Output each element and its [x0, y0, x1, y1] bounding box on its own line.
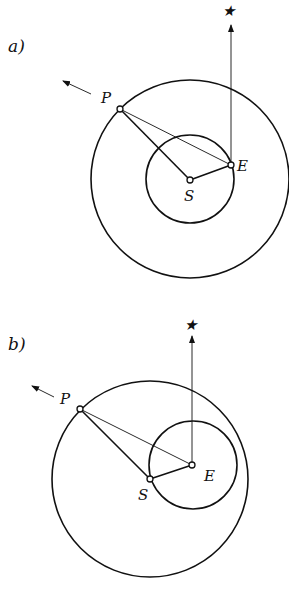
- star-icon: ★: [222, 2, 237, 20]
- sun-label: S: [138, 486, 148, 504]
- planet-point: [117, 106, 123, 112]
- panel-b-label: b): [8, 334, 26, 354]
- planet-point: [77, 406, 83, 412]
- panel-a-label: a): [8, 36, 25, 56]
- sun-point: [187, 177, 193, 183]
- earth-planet-line: [80, 409, 192, 465]
- star-icon: ★: [184, 316, 199, 334]
- earth-label: E: [203, 467, 215, 485]
- earth-point: [228, 162, 234, 168]
- planet-motion-arrow: [32, 386, 54, 397]
- planet-motion-arrow: [63, 81, 91, 94]
- sun-point: [147, 476, 153, 482]
- panel-b: b) ★ E S P: [8, 316, 248, 577]
- sun-label: S: [184, 187, 194, 205]
- sun-earth-line: [150, 465, 192, 479]
- earth-point: [189, 462, 195, 468]
- planet-label: P: [100, 89, 112, 107]
- panel-a: a) ★ S E P: [8, 2, 289, 278]
- orbit-diagram: a) ★ S E P b) ★: [0, 0, 289, 592]
- planet-label: P: [59, 390, 71, 408]
- sun-planet-line: [120, 109, 190, 180]
- earth-label: E: [236, 157, 248, 175]
- sun-planet-line: [80, 409, 150, 479]
- earth-planet-line: [120, 109, 231, 165]
- sun-earth-line: [190, 165, 231, 180]
- diagram-canvas: a) ★ S E P b) ★: [0, 0, 289, 592]
